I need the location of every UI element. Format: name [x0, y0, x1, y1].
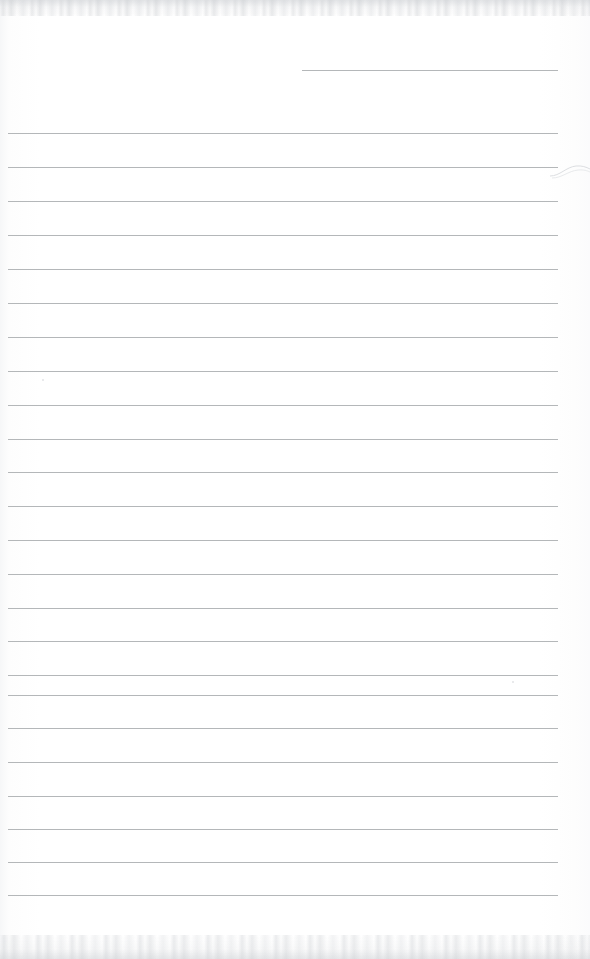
top-right-rule: [302, 70, 558, 71]
scan-noise-band-top: [0, 0, 590, 16]
scan-noise-band-bottom: [0, 935, 590, 959]
scanned-page: [0, 0, 590, 959]
ruled-line: [8, 895, 558, 896]
handwritten-content-area: [8, 133, 558, 895]
